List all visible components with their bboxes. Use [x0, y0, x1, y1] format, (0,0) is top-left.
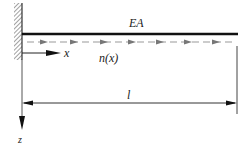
z-axis-arrow [19, 60, 25, 130]
fixed-support [14, 3, 22, 60]
x-axis-arrow [22, 50, 61, 56]
stiffness-label: EA [128, 16, 144, 30]
load-label: n(x) [99, 51, 118, 65]
bar-diagram: EA x n(x) l z [0, 0, 251, 152]
length-label: l [127, 88, 131, 102]
distributed-load [27, 40, 236, 45]
x-axis-label: x [63, 46, 70, 60]
z-axis-label: z [17, 134, 22, 145]
